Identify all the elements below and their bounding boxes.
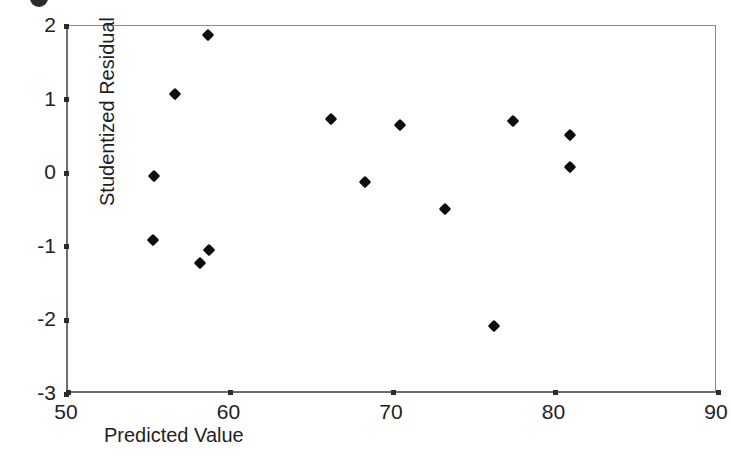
data-point bbox=[359, 176, 372, 189]
y-axis-tick-label: -3 bbox=[0, 382, 56, 403]
y-axis-tick-label: 2 bbox=[0, 14, 56, 35]
y-axis-tick-label: -2 bbox=[0, 308, 56, 329]
x-axis-tick-label: 50 bbox=[31, 401, 101, 422]
x-axis-tick-label: 60 bbox=[194, 401, 264, 422]
x-axis-title: Predicted Value bbox=[104, 424, 244, 447]
y-axis-tick bbox=[64, 244, 69, 249]
data-point bbox=[203, 244, 216, 257]
data-point bbox=[146, 234, 159, 247]
x-axis-tick bbox=[66, 390, 71, 395]
data-point bbox=[148, 170, 161, 183]
x-axis-tick bbox=[391, 390, 396, 395]
data-point bbox=[169, 88, 182, 101]
data-point bbox=[487, 320, 500, 333]
y-axis-tick-label: -1 bbox=[0, 235, 56, 256]
scatter-plot-figure: 210-1-2-3 5060708090 Studentized Residua… bbox=[0, 0, 731, 464]
x-axis-tick bbox=[553, 390, 558, 395]
plot-area bbox=[66, 25, 716, 393]
data-point bbox=[507, 115, 520, 128]
data-point bbox=[564, 161, 577, 174]
y-axis-tick bbox=[64, 97, 69, 102]
x-axis-tick bbox=[716, 390, 721, 395]
caption-artifact bbox=[30, 0, 48, 7]
x-axis-tick-label: 70 bbox=[356, 401, 426, 422]
x-axis-tick-label: 90 bbox=[681, 401, 731, 422]
x-axis-tick-label: 80 bbox=[519, 401, 589, 422]
data-point bbox=[564, 129, 577, 142]
y-axis-tick bbox=[64, 318, 69, 323]
data-point bbox=[439, 203, 452, 216]
y-axis-tick-label: 1 bbox=[0, 88, 56, 109]
data-point bbox=[393, 119, 406, 132]
data-point bbox=[201, 28, 214, 41]
y-axis-tick bbox=[64, 171, 69, 176]
y-axis-tick-label: 0 bbox=[0, 161, 56, 182]
data-point bbox=[325, 113, 338, 126]
y-axis-tick bbox=[64, 24, 69, 29]
data-point bbox=[193, 257, 206, 270]
y-axis-title: Studentized Residual bbox=[96, 0, 119, 257]
x-axis-tick bbox=[228, 390, 233, 395]
